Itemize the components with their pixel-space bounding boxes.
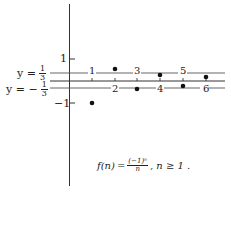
formula-condition: , n ≥ 1 .	[150, 160, 190, 171]
formula-equals: =	[117, 160, 125, 171]
data-point-n3	[135, 87, 140, 92]
n-label-1: 1	[89, 66, 95, 76]
ref-label-neg-third: y = − 1 3	[6, 81, 48, 98]
n-label-3: 3	[134, 66, 140, 76]
data-point-n4	[158, 73, 163, 78]
data-point-n1	[90, 101, 95, 106]
n-label-5: 5	[180, 66, 186, 76]
formula-denominator: n	[135, 166, 140, 173]
n-label-6: 6	[203, 84, 209, 94]
ref-label-prefix: y =	[17, 68, 36, 79]
y-tick-label-neg1: −1	[54, 98, 70, 109]
n-label-4: 4	[157, 84, 163, 94]
data-point-n6	[204, 75, 209, 80]
n-label-2: 2	[112, 84, 118, 94]
data-point-n2	[113, 67, 118, 72]
data-point-n5	[181, 84, 186, 89]
fraction-denominator: 3	[42, 90, 47, 98]
function-formula: f(n) = (−1)ⁿ n , n ≥ 1 .	[97, 158, 190, 173]
formula-lhs: f(n)	[97, 160, 115, 171]
y-tick-label-1: 1	[60, 53, 67, 64]
formula-fraction: (−1)ⁿ n	[127, 158, 148, 173]
ref-label-prefix: y = −	[6, 84, 38, 95]
fraction-one-third: 1 3	[41, 81, 48, 98]
